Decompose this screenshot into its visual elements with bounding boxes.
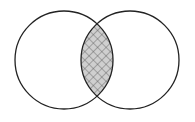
venn-diagram	[0, 0, 195, 122]
